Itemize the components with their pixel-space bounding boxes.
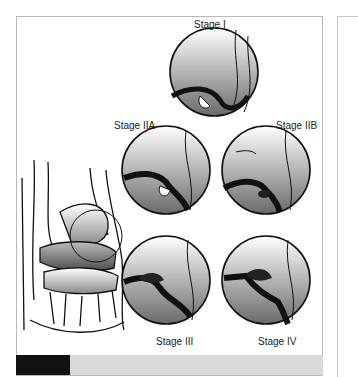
figure-number-label	[16, 355, 70, 375]
stage-2a-circle	[122, 126, 210, 214]
figure-caption	[16, 355, 323, 375]
stage-3-circle	[122, 236, 210, 324]
stage-4-label: Stage IV	[258, 336, 296, 347]
stage-2b-label: Stage IIB	[276, 120, 317, 131]
stage-4-circle	[222, 236, 310, 324]
stage-2a-label: Stage IIA	[114, 120, 155, 131]
stage-2b-circle	[222, 126, 310, 214]
ankle-drawing	[22, 160, 124, 332]
stage-3-label: Stage III	[156, 336, 193, 347]
stage-1-circle	[170, 28, 258, 116]
figure-caption-text	[70, 355, 323, 375]
stage-1-label: Stage I	[194, 19, 226, 30]
